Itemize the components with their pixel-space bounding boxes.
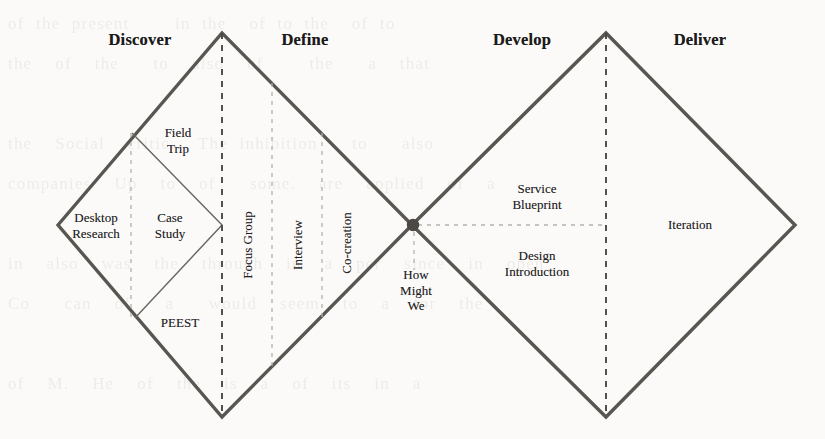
method-label-iteration: Iteration bbox=[668, 217, 712, 233]
method-label-peest: PEEST bbox=[161, 315, 199, 331]
method-label-focus-group: Focus Group bbox=[240, 211, 256, 279]
phase-header-discover: Discover bbox=[109, 30, 172, 50]
double-diamond-diagram: of the present in the of to the of to th… bbox=[0, 0, 825, 439]
method-label-co-creation: Co-creation bbox=[339, 212, 355, 273]
method-label-field-trip: Field Trip bbox=[165, 125, 192, 156]
phase-header-develop: Develop bbox=[493, 30, 551, 50]
method-label-case-study: Case Study bbox=[155, 210, 185, 241]
phase-header-define: Define bbox=[281, 30, 328, 50]
method-label-service-blueprint: Service Blueprint bbox=[512, 181, 561, 212]
phase-header-deliver: Deliver bbox=[674, 30, 727, 50]
junction-dot bbox=[407, 219, 419, 231]
method-label-interview: Interview bbox=[290, 220, 306, 270]
method-label-how-might-we: How Might We bbox=[400, 267, 432, 314]
method-label-desktop-research: Desktop Research bbox=[72, 210, 120, 241]
method-label-design-introduction: Design Introduction bbox=[505, 248, 569, 279]
right-diamond-outline bbox=[412, 33, 795, 417]
